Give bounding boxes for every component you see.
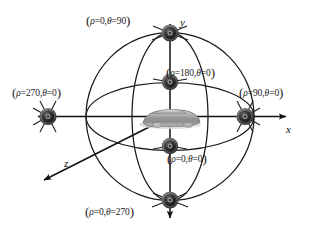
label-right-theta-value: =0 <box>269 88 279 98</box>
label-bottom-rho-value: =0, <box>94 207 106 217</box>
diagram-canvas: (ρ=0,θ=90) (ρ=180,θ=0) (ρ=270,θ=0) (ρ=90… <box>0 0 315 231</box>
label-inner-lower-rho-value: =0, <box>176 154 188 164</box>
speaker-bottom-center <box>169 199 171 201</box>
label-bottom-close-paren: ) <box>130 204 134 219</box>
speaker-left-center <box>47 115 49 117</box>
label-speaker-right: (ρ=90,θ=0) <box>239 86 283 99</box>
car-icon <box>139 110 201 130</box>
label-speaker-inner-lower: (ρ=0,θ=0) <box>167 152 207 165</box>
sphere-diagram-svg <box>0 0 315 231</box>
label-top-theta-value: =90 <box>111 16 126 26</box>
label-inner-upper-close-paren: ) <box>211 65 215 80</box>
speaker-inner-upper-center <box>169 81 171 83</box>
label-left-close-paren: ) <box>57 85 61 100</box>
label-top-rho-value: =0, <box>95 16 107 26</box>
label-left-theta-value: =0 <box>47 88 57 98</box>
x-axis-label: x <box>286 124 291 135</box>
speaker-inner-lower-center <box>169 145 171 147</box>
car-front-wheel <box>153 122 162 127</box>
label-inner-lower-close-paren: ) <box>202 151 206 166</box>
speaker-right-center <box>244 115 246 117</box>
label-right-rho-value: =90, <box>248 88 265 98</box>
y-axis-label: y <box>180 17 185 28</box>
label-bottom-theta-value: =270 <box>110 207 129 217</box>
label-speaker-top: (ρ=0,θ=90) <box>86 14 130 27</box>
label-inner-upper-theta-value: =0 <box>201 68 211 78</box>
label-speaker-bottom: (ρ=0,θ=270) <box>85 205 134 218</box>
label-left-rho-value: =270, <box>21 88 42 98</box>
label-inner-upper-rho-value: =180, <box>175 68 196 78</box>
label-right-close-paren: ) <box>279 85 283 100</box>
speaker-left[interactable] <box>33 101 57 132</box>
speaker-top-center <box>169 32 171 34</box>
z-axis-label: z <box>64 158 68 169</box>
label-speaker-left: (ρ=270,θ=0) <box>12 86 61 99</box>
car-rear-wheel <box>184 122 193 127</box>
label-inner-lower-theta-value: =0 <box>192 154 202 164</box>
label-speaker-inner-upper: (ρ=180,θ=0) <box>166 66 215 79</box>
label-top-close-paren: ) <box>126 13 130 28</box>
